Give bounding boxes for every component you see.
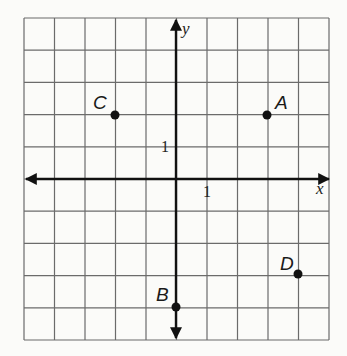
x-axis-label: x [315,179,324,198]
point-b-label: B [156,284,169,305]
point-d: D [280,253,303,279]
y-tick-label: 1 [161,138,169,155]
point-a-label: A [274,92,288,113]
point-a-dot [263,111,272,120]
point-d-label: D [280,253,294,274]
point-d-dot [294,270,303,279]
point-c-label: C [93,92,107,113]
point-b-dot [172,303,181,312]
point-c-dot [111,111,120,120]
coordinate-plane: x y 1 1 A B C D [0,0,347,356]
x-tick-label: 1 [203,183,211,200]
point-a: A [263,92,288,120]
y-axis-label: y [180,19,190,38]
